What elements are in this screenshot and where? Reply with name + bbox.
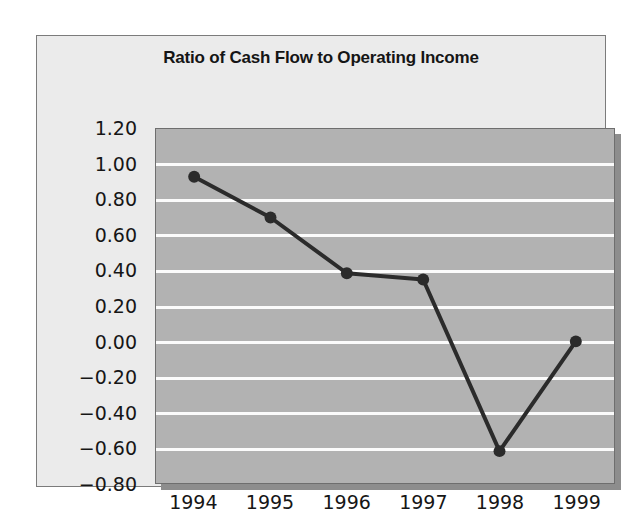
series-markers — [188, 171, 582, 457]
gridline — [156, 484, 614, 485]
plot-area — [155, 128, 615, 484]
y-axis-tick-label: −0.40 — [37, 402, 145, 424]
x-axis-tick-labels: 199419951996199719981999 — [155, 491, 615, 519]
line-series — [156, 129, 614, 483]
x-axis-tick-label: 1995 — [232, 491, 309, 519]
y-axis-tick-label: 0.20 — [37, 295, 145, 317]
data-point-marker — [570, 335, 582, 347]
y-axis-tick-label: −0.60 — [37, 437, 145, 459]
y-axis-tick-label: −0.80 — [37, 473, 145, 495]
data-point-marker — [341, 267, 353, 279]
x-axis-tick-label: 1998 — [462, 491, 539, 519]
data-point-marker — [188, 171, 200, 183]
y-axis-tick-label: 0.40 — [37, 259, 145, 281]
y-axis-tick-label: 0.80 — [37, 188, 145, 210]
y-axis-tick-label: 1.20 — [37, 117, 145, 139]
chart-figure: Ratio of Cash Flow to Operating Income 1… — [0, 0, 642, 523]
y-axis-tick-label: −0.20 — [37, 366, 145, 388]
x-axis-tick-label: 1996 — [308, 491, 385, 519]
x-axis-tick-label: 1994 — [155, 491, 232, 519]
x-axis-tick-label: 1999 — [538, 491, 615, 519]
chart-panel: Ratio of Cash Flow to Operating Income 1… — [36, 35, 606, 487]
y-axis-tick-label: 0.60 — [37, 224, 145, 246]
chart-title: Ratio of Cash Flow to Operating Income — [37, 48, 605, 68]
y-axis-tick-label: 0.00 — [37, 331, 145, 353]
data-point-marker — [417, 273, 429, 285]
data-point-marker — [494, 445, 506, 457]
series-polyline — [194, 177, 576, 451]
data-point-marker — [265, 212, 277, 224]
y-axis-tick-label: 1.00 — [37, 153, 145, 175]
x-axis-tick-label: 1997 — [385, 491, 462, 519]
